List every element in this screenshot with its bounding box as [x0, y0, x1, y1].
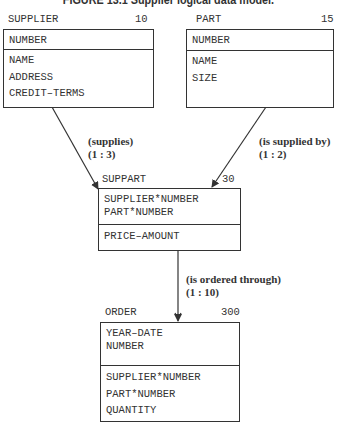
supplier-attribute: CREDIT–TERMS	[9, 85, 153, 102]
suppart-attribute-section: PRICE–AMOUNT	[99, 225, 240, 245]
relationship-cardinality: (1 : 3)	[88, 148, 133, 161]
order-entity-name: ORDER	[105, 306, 137, 318]
order-attribute-section: SUPPLIER*NUMBER PART*NUMBER QUANTITY	[101, 366, 239, 419]
suppart-entity-box: SUPPLIER*NUMBER PART*NUMBER PRICE–AMOUNT	[98, 188, 241, 251]
order-attribute: QUANTITY	[106, 402, 239, 419]
relationship-name: (supplies)	[88, 135, 133, 148]
part-entity-box: NUMBER NAME SIZE	[186, 29, 334, 108]
order-key-attribute: YEAR–DATE	[106, 327, 239, 340]
order-key-attribute: NUMBER	[106, 340, 239, 353]
relationship-name: (is supplied by)	[259, 135, 331, 148]
supplies-relationship-label: (supplies) (1 : 3)	[88, 135, 133, 161]
supplier-attribute-section: NAME ADDRESS CREDIT–TERMS	[4, 50, 153, 102]
part-entity-count: 15	[321, 13, 334, 25]
relationship-cardinality: (1 : 2)	[259, 148, 331, 161]
is-supplied-by-arrow	[212, 107, 266, 187]
part-attribute-section: NAME SIZE	[187, 51, 333, 86]
supplier-key-section: NUMBER	[4, 30, 153, 50]
supplier-entity-count: 10	[135, 13, 148, 25]
order-attribute: PART*NUMBER	[106, 386, 239, 403]
suppart-key-attribute: PART*NUMBER	[104, 206, 240, 219]
is-supplied-by-relationship-label: (is supplied by) (1 : 2)	[259, 135, 331, 161]
suppart-entity-name: SUPPART	[102, 173, 146, 185]
part-attribute: SIZE	[192, 70, 333, 87]
supplier-attribute: NAME	[9, 52, 153, 69]
order-entity-box: YEAR–DATE NUMBER SUPPLIER*NUMBER PART*NU…	[100, 322, 240, 422]
supplier-entity-box: NUMBER NAME ADDRESS CREDIT–TERMS	[3, 29, 154, 108]
is-ordered-through-relationship-label: (is ordered through) (1 : 10)	[186, 273, 281, 299]
suppart-entity-count: 30	[222, 173, 235, 185]
relationship-name: (is ordered through)	[186, 273, 281, 286]
part-key-attribute: NUMBER	[192, 32, 333, 49]
part-entity-name: PART	[196, 13, 221, 25]
part-key-section: NUMBER	[187, 30, 333, 51]
relationship-cardinality: (1 : 10)	[186, 286, 281, 299]
suppart-attribute: PRICE–AMOUNT	[104, 228, 240, 245]
supplier-attribute: ADDRESS	[9, 69, 153, 86]
order-attribute: SUPPLIER*NUMBER	[106, 369, 239, 386]
order-key-section: YEAR–DATE NUMBER	[101, 323, 239, 366]
supplier-entity-name: SUPPLIER	[8, 13, 58, 25]
order-entity-count: 300	[221, 306, 240, 318]
part-attribute: NAME	[192, 53, 333, 70]
supplier-key-attribute: NUMBER	[9, 32, 153, 49]
suppart-key-section: SUPPLIER*NUMBER PART*NUMBER	[99, 189, 240, 225]
suppart-key-attribute: SUPPLIER*NUMBER	[104, 193, 240, 206]
